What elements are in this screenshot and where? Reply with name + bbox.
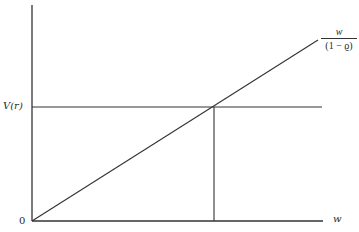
diagram-lines: [0, 0, 359, 232]
origin-label: 0: [19, 216, 25, 226]
diagram-canvas: V(r) 0 w w (1 − ϱ): [0, 0, 359, 232]
diagonal-line-label: w (1 − ϱ): [320, 26, 358, 51]
diagonal-line: [32, 40, 318, 221]
fraction-bar: [321, 38, 357, 39]
x-axis-label: w: [333, 214, 342, 224]
v-r-text: V(r): [3, 100, 23, 111]
fraction-numerator: w: [320, 26, 358, 37]
y-tick-label-v-r: V(r): [3, 101, 23, 111]
fraction-denominator: (1 − ϱ): [320, 40, 358, 51]
